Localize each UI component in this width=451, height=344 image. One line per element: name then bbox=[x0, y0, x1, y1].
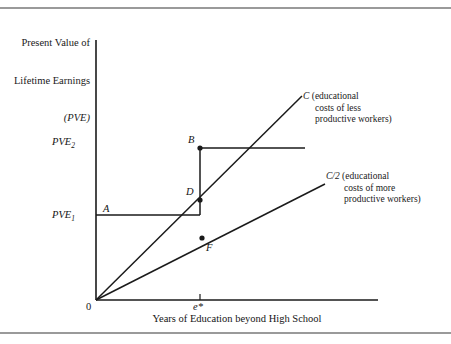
curve-label-c-half-head: C/2 bbox=[326, 171, 340, 181]
curve-label-c-line2: costs of less bbox=[315, 103, 392, 115]
pve2-subscript: 2 bbox=[71, 141, 75, 150]
curve-label-c-half: C/2 (educational costs of more productiv… bbox=[326, 171, 421, 206]
pve1-base: PVE bbox=[52, 209, 71, 220]
curve-label-c-half-line3: productive workers) bbox=[344, 194, 421, 206]
pve2-base: PVE bbox=[52, 136, 71, 147]
y-axis-title: Present Value of Lifetime Earnings (PVE) bbox=[2, 12, 90, 150]
curve-label-c-half-line1: (educational bbox=[340, 171, 389, 181]
point-label-b: B bbox=[188, 134, 194, 147]
y-axis-title-line1: Present Value of bbox=[2, 37, 90, 50]
pve1-subscript: 1 bbox=[71, 214, 75, 223]
x-axis-title: Years of Education beyond High School bbox=[96, 313, 378, 326]
point-label-f: F bbox=[206, 242, 212, 255]
y-tick-label-pve1: PVE1 bbox=[52, 209, 75, 223]
point-label-d: D bbox=[186, 186, 194, 199]
point-label-a: A bbox=[103, 203, 109, 216]
curve-label-c-line1: (educational bbox=[309, 91, 358, 101]
curve-label-c-line3: productive workers) bbox=[315, 114, 392, 126]
x-tick-label-e-star: e* bbox=[193, 301, 203, 314]
y-tick-label-pve2: PVE2 bbox=[52, 136, 75, 150]
point-marker-d bbox=[197, 197, 202, 202]
origin-label: 0 bbox=[86, 301, 91, 314]
point-marker-b bbox=[197, 145, 202, 150]
curve-label-c-half-line2: costs of more bbox=[344, 183, 421, 195]
curve-label-c: C (educational costs of less productive … bbox=[303, 91, 392, 126]
point-marker-f bbox=[199, 235, 204, 240]
signaling-diagram-figure: Present Value of Lifetime Earnings (PVE)… bbox=[0, 0, 451, 344]
y-axis-title-line3: (PVE) bbox=[2, 112, 90, 125]
y-axis-title-line2: Lifetime Earnings bbox=[2, 75, 90, 88]
